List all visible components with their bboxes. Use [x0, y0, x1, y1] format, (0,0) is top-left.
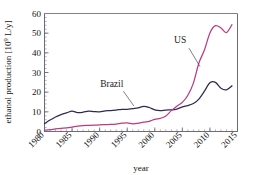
x-tick-label: 2010 [192, 129, 212, 149]
series-leader-lines [123, 48, 200, 106]
x-axis-title: year [133, 163, 149, 173]
series-lines [45, 25, 232, 131]
minor-ticks [45, 14, 238, 132]
axis-frame-path [45, 14, 238, 132]
x-tick-label: 2015 [219, 129, 239, 149]
major-ticks [45, 14, 238, 132]
y-tick-label: 0 [37, 127, 42, 137]
x-tick-label: 1990 [81, 129, 101, 149]
y-tick-label: 50 [32, 28, 42, 38]
y-tick-label: 30 [32, 68, 42, 78]
y-axis-title: ethanol production [109 L/y] [2, 20, 13, 123]
x-tick-label: 1995 [109, 129, 129, 149]
leader-line-brazil [123, 91, 133, 106]
y-tick-label: 20 [32, 87, 42, 97]
series-line-brazil [45, 82, 232, 124]
x-tick-label: 2000 [136, 129, 156, 149]
x-tick-label: 2005 [164, 129, 184, 149]
series-annotations: BrazilUS [100, 35, 186, 89]
series-label-us: US [174, 35, 186, 45]
leader-line-us [189, 48, 200, 66]
y-tick-labels: 0102030405060 [32, 9, 42, 137]
chart-canvas: 19801985199019952000200520102015 0102030… [0, 0, 259, 175]
y-tick-label: 10 [32, 107, 42, 117]
axis-frame [45, 14, 238, 132]
x-tick-labels: 19801985199019952000200520102015 [26, 129, 239, 149]
series-line-us [45, 25, 232, 131]
x-tick-label: 1985 [54, 129, 74, 149]
series-label-brazil: Brazil [100, 79, 124, 89]
ethanol-production-chart: 19801985199019952000200520102015 0102030… [0, 0, 259, 175]
y-tick-label: 60 [32, 9, 42, 19]
y-tick-label: 40 [32, 48, 42, 58]
